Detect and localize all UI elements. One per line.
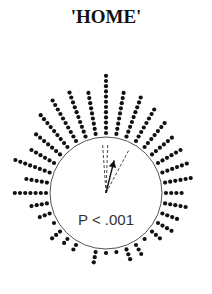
confidence-lines [103,144,130,193]
arrowhead-icon [109,160,116,168]
data-dots [13,74,193,265]
p-value-label: P < .001 [78,211,134,228]
circular-dot-plot: P < .001 [0,0,212,294]
